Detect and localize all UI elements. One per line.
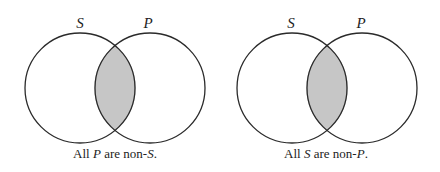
shaded-intersection-right [306, 45, 347, 131]
caption-part: P [356, 146, 365, 161]
caption-part: All [73, 146, 93, 161]
label-s-left: S [76, 15, 84, 31]
caption-part: P [92, 146, 101, 161]
caption-part: . [154, 146, 157, 161]
venn-diagram-left: S P All P are non-S. [25, 15, 205, 161]
label-p-right: P [355, 15, 365, 31]
caption-right: All S are non-P. [284, 146, 368, 161]
caption-part: . [365, 146, 368, 161]
label-p-left: P [142, 15, 152, 31]
caption-part: All [284, 146, 304, 161]
venn-diagrams-canvas: S P All P are non-S. S P All S are non-P… [0, 0, 440, 172]
venn-diagram-right: S P All S are non-P. [237, 15, 417, 161]
caption-left: All P are non-S. [73, 146, 157, 161]
label-s-right: S [287, 15, 295, 31]
caption-part: are non- [101, 146, 147, 161]
shaded-intersection-left [94, 45, 135, 131]
caption-part: are non- [310, 146, 356, 161]
